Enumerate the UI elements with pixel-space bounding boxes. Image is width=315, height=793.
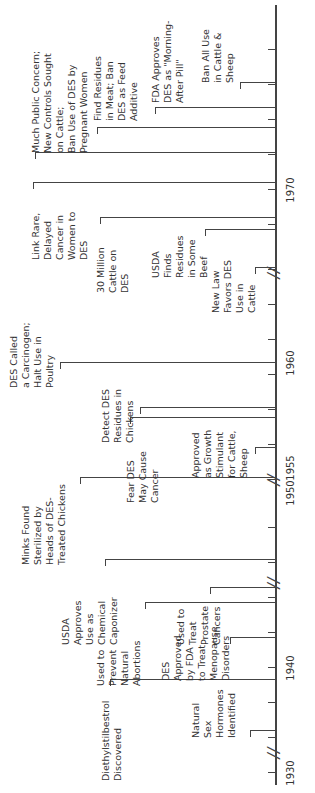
- axis-tick: [268, 562, 275, 563]
- event-leader-line: [35, 152, 275, 153]
- event-leader-line: [33, 182, 275, 183]
- axis-tick: [268, 702, 275, 703]
- event-label: Link Rare, Delayed Cancer in Women to DE…: [30, 212, 90, 260]
- year-label: 1970: [285, 177, 296, 202]
- event-leader-line: [205, 229, 275, 230]
- event-leader-tick: [60, 363, 61, 369]
- year-label: 1955: [285, 455, 296, 480]
- event-leader-line: [255, 447, 275, 448]
- axis-tick: [268, 527, 275, 528]
- event-label: USDA Approves Use as Chemical Caponizer: [60, 597, 120, 645]
- event-leader-line: [210, 587, 275, 588]
- year-label: 1930: [285, 760, 296, 785]
- axis-tick: [268, 374, 275, 375]
- year-label: 1940: [285, 655, 296, 680]
- event-leader-tick: [35, 153, 36, 159]
- axis-tick: [268, 737, 275, 738]
- event-leader-tick: [140, 408, 141, 414]
- event-leader-line: [60, 362, 275, 363]
- axis-break-icon: //: [264, 748, 283, 759]
- event-leader-tick: [250, 731, 251, 737]
- event-label: Used to Prevent Natural Abortions: [95, 641, 143, 686]
- axis-tick: [268, 409, 275, 410]
- event-label: Diethylstilbestrol Discovered: [100, 701, 124, 781]
- axis-tick: [268, 304, 275, 305]
- axis-tick: [268, 632, 275, 633]
- event-label: Ban All Use in Cattle & Sheep: [200, 29, 236, 83]
- axis-tick: [268, 49, 275, 50]
- event-leader-tick: [33, 183, 34, 189]
- axis-tick: [268, 597, 275, 598]
- event-label: Detect DES Residues in Chickens: [100, 389, 136, 443]
- event-leader-tick: [205, 230, 206, 236]
- event-leader-line: [250, 730, 275, 731]
- event-leader-line: [155, 107, 275, 108]
- event-label: Approved as Growth Stimulant for Cattle,…: [190, 430, 250, 478]
- event-leader-tick: [100, 218, 101, 224]
- event-leader-tick: [97, 128, 98, 134]
- event-leader-tick: [155, 108, 156, 114]
- event-leader-tick: [255, 268, 256, 274]
- event-leader-tick: [240, 83, 241, 89]
- event-leader-line: [97, 127, 275, 128]
- year-label: 1960: [285, 350, 296, 375]
- event-label: Used to Treat Prostate Cancers: [175, 606, 223, 645]
- axis-tick: [268, 154, 275, 155]
- event-leader-line: [130, 417, 275, 418]
- axis-tick: [268, 444, 275, 445]
- year-label: 1950: [285, 480, 296, 505]
- event-leader-tick: [80, 478, 81, 484]
- event-leader-tick: [230, 638, 231, 644]
- event-label: FDA Approves DES as "Morning- After Pill…: [150, 21, 186, 103]
- axis-tick: [268, 189, 275, 190]
- event-leader-tick: [105, 560, 106, 566]
- event-label: New Law Favors DES Use in Cattle: [210, 260, 258, 313]
- axis-break-icon: //: [264, 268, 283, 279]
- axis-tick: [268, 84, 275, 85]
- event-leader-tick: [210, 588, 211, 594]
- event-leader-tick: [145, 603, 146, 609]
- event-label: Much Public Concern; New Controls Sought…: [30, 51, 90, 153]
- event-leader-line: [140, 407, 275, 408]
- event-leader-line: [100, 217, 275, 218]
- axis-tick: [268, 772, 275, 773]
- event-leader-line: [240, 82, 275, 83]
- timeline-axis: [275, 5, 277, 785]
- event-label: DES Called a Carcinogen; Halt Use in Pou…: [8, 322, 56, 388]
- event-label: Fear DES May Cause Cancer: [125, 451, 161, 503]
- event-leader-line: [145, 602, 275, 603]
- axis-tick: [268, 119, 275, 120]
- axis-tick: [268, 339, 275, 340]
- event-leader-line: [230, 637, 275, 638]
- event-label: 30 Million Cattle on DES: [95, 247, 131, 293]
- event-leader-tick: [255, 448, 256, 454]
- event-label: USDA Finds Residues in Some Beef: [150, 236, 210, 278]
- axis-tick: [268, 667, 275, 668]
- event-leader-line: [255, 267, 275, 268]
- event-label: Natural Sex Hormones Identified: [190, 689, 238, 738]
- event-leader-line: [105, 559, 275, 560]
- des-timeline: 193019401950195519601970 //////// Natura…: [0, 0, 315, 793]
- event-label: Find Residues in Meat; Ban DES as Feed A…: [92, 56, 140, 121]
- event-label: Minks Found Sterilized by Heads of DES- …: [20, 484, 68, 565]
- axis-tick: [268, 224, 275, 225]
